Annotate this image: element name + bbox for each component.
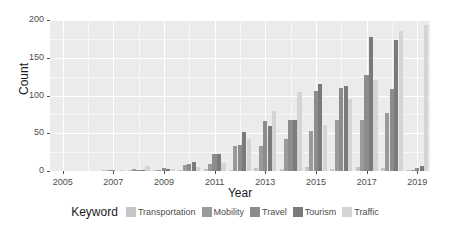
bar xyxy=(424,25,428,171)
y-tick-mark xyxy=(47,96,50,97)
x-gridline xyxy=(113,20,114,171)
bar xyxy=(297,92,301,171)
bar xyxy=(323,125,327,171)
bar xyxy=(247,139,251,171)
y-tick-label: 0 xyxy=(39,166,44,175)
legend: Keyword TransportationMobilityTravelTour… xyxy=(0,204,450,220)
x-gridline-minor xyxy=(139,20,140,171)
legend-item-mobility[interactable]: Mobility xyxy=(202,207,245,217)
bar xyxy=(399,31,403,171)
legend-item-label: Traffic xyxy=(354,207,379,217)
x-tick-label: 2019 xyxy=(397,177,437,187)
x-tick-label: 2009 xyxy=(144,177,184,187)
legend-item-label: Travel xyxy=(262,207,287,217)
x-tick-mark xyxy=(215,171,216,174)
legend-item-label: Mobility xyxy=(214,207,245,217)
y-tick-label: 150 xyxy=(29,53,44,62)
y-tick-label: 100 xyxy=(29,91,44,100)
x-tick-label: 2017 xyxy=(347,177,387,187)
x-tick-label: 2007 xyxy=(93,177,133,187)
x-tick-mark xyxy=(316,171,317,174)
legend-swatch-icon xyxy=(250,207,260,217)
x-gridline xyxy=(215,20,216,171)
bar xyxy=(120,170,124,171)
legend-title: Keyword xyxy=(71,205,118,219)
bar xyxy=(145,166,149,171)
x-tick-mark xyxy=(367,171,368,174)
x-gridline xyxy=(63,20,64,171)
y-tick-mark xyxy=(47,133,50,134)
legend-swatch-icon xyxy=(126,207,136,217)
x-tick-mark xyxy=(113,171,114,174)
bar-chart-figure: Count Year Keyword TransportationMobilit… xyxy=(0,0,450,231)
x-tick-mark xyxy=(63,171,64,174)
bar xyxy=(272,111,276,171)
x-gridline-minor xyxy=(189,20,190,171)
bar xyxy=(196,167,200,171)
legend-item-travel[interactable]: Travel xyxy=(250,207,287,217)
legend-item-transportation[interactable]: Transportation xyxy=(126,207,196,217)
x-tick-label: 2015 xyxy=(296,177,336,187)
legend-item-label: Transportation xyxy=(138,207,196,217)
x-tick-label: 2011 xyxy=(195,177,235,187)
bar xyxy=(221,163,225,171)
legend-items: TransportationMobilityTravelTourismTraff… xyxy=(126,207,379,217)
y-tick-label: 200 xyxy=(29,15,44,24)
legend-swatch-icon xyxy=(293,207,303,217)
legend-item-label: Tourism xyxy=(305,207,337,217)
legend-swatch-icon xyxy=(202,207,212,217)
x-gridline xyxy=(164,20,165,171)
plot-panel xyxy=(50,20,430,171)
y-tick-mark xyxy=(47,58,50,59)
x-tick-label: 2013 xyxy=(245,177,285,187)
y-tick-mark xyxy=(47,171,50,172)
y-tick-mark xyxy=(47,20,50,21)
x-gridline xyxy=(417,20,418,171)
legend-item-traffic[interactable]: Traffic xyxy=(342,207,379,217)
y-tick-label: 50 xyxy=(34,128,44,137)
x-tick-mark xyxy=(164,171,165,174)
bar xyxy=(171,169,175,171)
bar xyxy=(348,99,352,171)
x-tick-label: 2005 xyxy=(43,177,83,187)
bar xyxy=(373,80,377,171)
legend-swatch-icon xyxy=(342,207,352,217)
x-tick-mark xyxy=(417,171,418,174)
legend-item-tourism[interactable]: Tourism xyxy=(293,207,337,217)
x-axis-title: Year xyxy=(50,186,430,200)
x-gridline-minor xyxy=(88,20,89,171)
x-tick-mark xyxy=(265,171,266,174)
